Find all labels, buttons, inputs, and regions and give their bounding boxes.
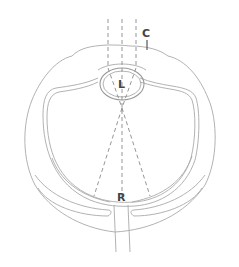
- lower-lobe-left: [35, 175, 111, 216]
- ray-left-diverge: [94, 108, 122, 196]
- eye-diagram: C L R: [0, 0, 239, 267]
- ray-right-diverge: [122, 108, 150, 196]
- optic-nerve-right: [128, 205, 130, 252]
- label-retina: R: [117, 191, 126, 204]
- label-cornea: C: [142, 27, 150, 40]
- optic-nerve-left: [114, 205, 116, 252]
- label-lens: L: [118, 78, 125, 91]
